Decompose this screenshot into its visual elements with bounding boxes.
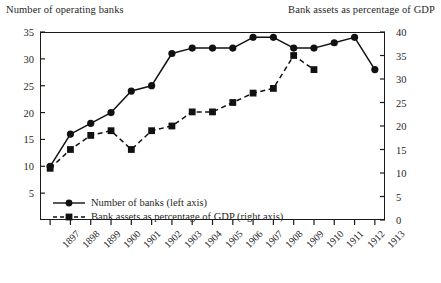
x-tick-1907: 1907 (263, 228, 285, 250)
legend-item-assets: Bank assets as percentage of GDP (right … (52, 210, 283, 224)
x-tick-1900: 1900 (121, 228, 143, 250)
x-tick-1912: 1912 (364, 228, 386, 250)
legend-label-assets: Bank assets as percentage of GDP (right … (91, 210, 283, 224)
legend-label-banks: Number of banks (left axis) (91, 196, 207, 210)
chart-figure: Number of operating banks Bank assets as… (0, 0, 441, 283)
x-tick-1913: 1913 (385, 228, 407, 250)
x-tick-1904: 1904 (202, 228, 224, 250)
x-tick-1909: 1909 (304, 228, 326, 250)
x-tick-1903: 1903 (182, 228, 204, 250)
x-tick-1899: 1899 (101, 228, 123, 250)
x-axis-tick-labels: 1897189818991900190119021903190419051906… (0, 0, 441, 283)
chart-legend: Number of banks (left axis) Bank assets … (52, 196, 283, 224)
x-tick-1902: 1902 (161, 228, 183, 250)
x-tick-1897: 1897 (60, 228, 82, 250)
x-tick-1901: 1901 (141, 228, 163, 250)
legend-key-circle-solid (52, 197, 86, 209)
legend-item-banks: Number of banks (left axis) (52, 196, 283, 210)
x-tick-1908: 1908 (283, 228, 305, 250)
legend-key-square-dashed (52, 211, 86, 223)
x-tick-1910: 1910 (324, 228, 346, 250)
x-tick-1905: 1905 (222, 228, 244, 250)
x-tick-1906: 1906 (243, 228, 265, 250)
x-tick-1911: 1911 (344, 228, 366, 250)
x-tick-1898: 1898 (80, 228, 102, 250)
